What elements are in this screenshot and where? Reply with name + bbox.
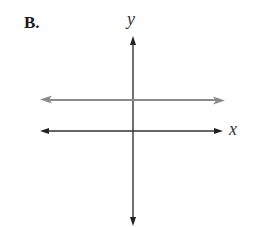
x-axis-right-arrow-icon — [214, 128, 223, 134]
graph-figure: B. y x — [0, 0, 264, 227]
coordinate-plane — [0, 0, 264, 227]
x-axis — [40, 128, 223, 134]
y-axis-down-arrow-icon — [130, 217, 136, 226]
x-axis-left-arrow-icon — [40, 128, 49, 134]
y-axis-up-arrow-icon — [130, 36, 136, 45]
